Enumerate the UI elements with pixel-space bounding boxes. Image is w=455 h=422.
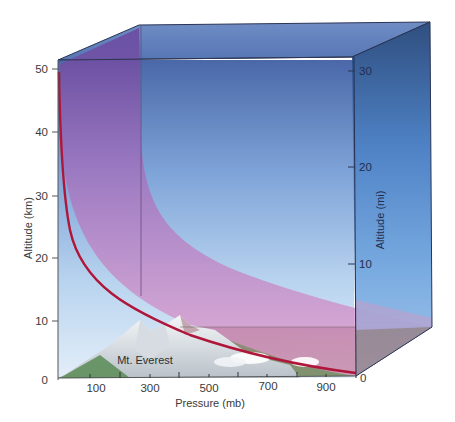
y2-tick-20: 20 (359, 161, 372, 173)
x-tick-900: 900 (316, 381, 335, 393)
y2-tick-10: 10 (359, 258, 372, 270)
y-axis-left (52, 69, 58, 321)
y-tick-0: 0 (42, 374, 48, 386)
y2-tick-0: 0 (360, 372, 366, 384)
atmosphere-pressure-chart: 50 40 30 20 10 0 Altitude (km) 30 20 10 … (0, 0, 455, 422)
y-tick-50: 50 (35, 63, 48, 75)
y-axis-title: Altitude (km) (22, 197, 34, 259)
x-tick-500: 500 (199, 382, 218, 394)
x-axis-title: Pressure (mb) (175, 397, 245, 409)
y-tick-30: 30 (35, 190, 48, 202)
y-tick-40: 40 (35, 126, 48, 138)
y2-tick-30: 30 (359, 65, 372, 77)
y-tick-10: 10 (35, 315, 48, 327)
y-tick-20: 20 (35, 252, 48, 264)
y2-axis-title: Altitude (mi) (374, 191, 386, 250)
x-tick-300: 300 (140, 382, 159, 394)
x-tick-100: 100 (86, 382, 105, 394)
everest-label: Mt. Everest (117, 354, 173, 366)
x-tick-700: 700 (258, 380, 277, 392)
